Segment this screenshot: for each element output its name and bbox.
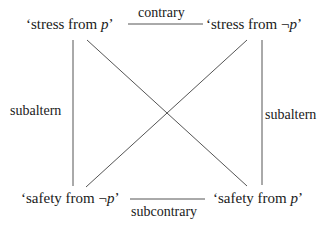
left-subaltern-label: subaltern	[10, 104, 61, 118]
corner-quote: ’	[114, 190, 119, 206]
corner-text: ‘safety from ¬	[21, 190, 107, 206]
corner-stress-from-p: ‘stress from p’	[26, 17, 114, 32]
corner-safety-from-not-p: ‘safety from ¬p’	[21, 191, 119, 206]
corner-text: ‘safety from	[213, 190, 290, 206]
subcontrary-label: subcontrary	[131, 205, 197, 219]
corner-quote: ’	[297, 16, 302, 32]
corner-text: ‘stress from ¬	[206, 16, 289, 32]
corner-quote: ’	[298, 190, 303, 206]
contrary-label: contrary	[138, 6, 185, 20]
corner-stress-from-not-p: ‘stress from ¬p’	[206, 17, 302, 32]
variable-p: p	[290, 190, 298, 206]
variable-p: p	[289, 16, 297, 32]
corner-quote: ’	[109, 16, 114, 32]
diagonal-tr-bl	[86, 40, 247, 187]
corner-safety-from-p: ‘safety from p’	[213, 191, 303, 206]
corner-text: ‘stress from	[26, 16, 101, 32]
right-subaltern-label: subaltern	[265, 108, 316, 122]
variable-p: p	[101, 16, 109, 32]
